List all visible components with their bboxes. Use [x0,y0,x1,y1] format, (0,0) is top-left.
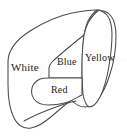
region-label-blue: Blue [57,57,77,67]
liver-diagram-figure: White Blue Yellow Red [0,0,127,137]
region-label-yellow: Yellow [85,53,115,63]
region-label-red: Red [51,85,68,95]
region-label-white: White [11,62,39,73]
